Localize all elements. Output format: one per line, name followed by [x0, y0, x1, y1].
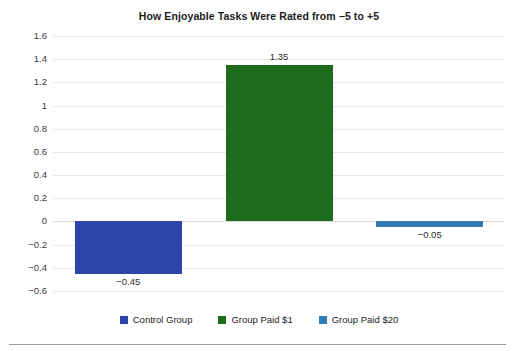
y-axis-tick-label: 0 — [3, 215, 47, 226]
y-axis-tick-label: −0.2 — [3, 239, 47, 250]
legend-item-label: Control Group — [133, 314, 193, 325]
bar-control-group[interactable] — [75, 221, 182, 273]
legend-swatch-icon — [218, 316, 226, 324]
bar-group-paid-20[interactable] — [376, 221, 483, 227]
y-axis-tick-label: 0.6 — [3, 146, 47, 157]
gridline — [53, 291, 505, 292]
chart-legend: Control GroupGroup Paid $1Group Paid $20 — [0, 314, 518, 325]
y-axis-tick-label: −0.6 — [3, 285, 47, 296]
y-axis-tick-label: 0.2 — [3, 192, 47, 203]
y-axis-tick-label: 1.6 — [3, 30, 47, 41]
gridline — [53, 36, 505, 37]
bar-group-paid-1[interactable] — [226, 65, 333, 221]
legend-item-label: Group Paid $20 — [332, 314, 399, 325]
legend-swatch-icon — [120, 316, 128, 324]
bar-value-label: −0.45 — [75, 276, 182, 287]
y-axis-tick-label: 0.8 — [3, 123, 47, 134]
bar-chart-figure: How Enjoyable Tasks Were Rated from −5 t… — [0, 0, 518, 351]
plot-area: 1.61.41.210.80.60.40.20−0.2−0.4−0.6−0.45… — [53, 36, 505, 291]
y-axis-tick-label: 1.2 — [3, 76, 47, 87]
bar-value-label: −0.05 — [376, 229, 483, 240]
y-axis-tick-label: 1.4 — [3, 53, 47, 64]
bar-value-label: 1.35 — [226, 51, 333, 62]
legend-swatch-icon — [319, 316, 327, 324]
footer-divider — [9, 344, 506, 345]
legend-item[interactable]: Control Group — [120, 314, 193, 325]
legend-item[interactable]: Group Paid $20 — [319, 314, 399, 325]
y-axis-tick-label: 0.4 — [3, 169, 47, 180]
y-axis-tick-label: −0.4 — [3, 262, 47, 273]
legend-item[interactable]: Group Paid $1 — [218, 314, 292, 325]
legend-item-label: Group Paid $1 — [231, 314, 292, 325]
y-axis-tick-label: 1 — [3, 100, 47, 111]
chart-title: How Enjoyable Tasks Were Rated from −5 t… — [0, 10, 518, 22]
